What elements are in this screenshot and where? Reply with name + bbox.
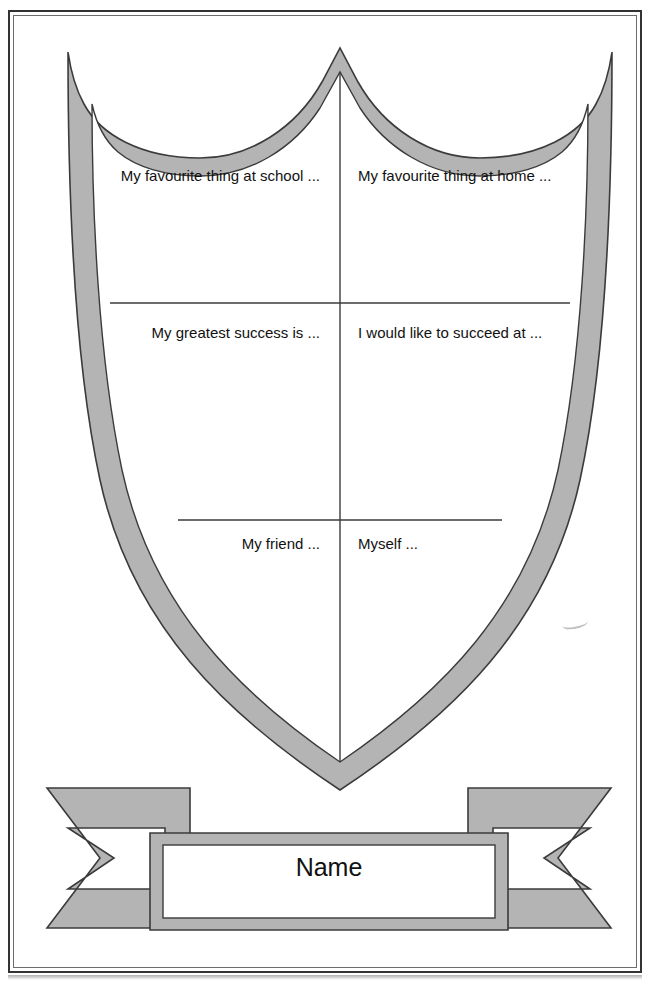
scan-shadow: [8, 975, 642, 980]
banner-name-label: Name: [163, 855, 495, 880]
shield-segment-middle-right-label: I would like to succeed at ...: [358, 325, 566, 340]
shield-segment-top-left-label: My favourite thing at school ...: [112, 168, 320, 183]
shield-segment-top-right-label: My favourite thing at home ...: [358, 168, 568, 183]
shield-segment-middle-left-label: My greatest success is ...: [122, 325, 320, 340]
shield-segment-bottom-right-label: Myself ...: [358, 536, 508, 551]
worksheet-page: My favourite thing at school ... My favo…: [0, 0, 658, 996]
shield-and-banner-artwork: [0, 0, 658, 996]
shield-segment-bottom-left-label: My friend ...: [170, 536, 320, 551]
